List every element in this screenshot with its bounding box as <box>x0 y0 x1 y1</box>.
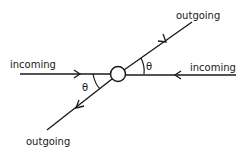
theta-right-label: θ <box>146 61 152 72</box>
angle-arc-right <box>141 58 144 74</box>
theta-left-label: θ <box>82 82 88 93</box>
outgoing-top-label: outgoing <box>176 10 220 21</box>
scattering-diagram: incoming incoming outgoing outgoing θ θ <box>0 0 248 156</box>
outgoing-bottom-line <box>47 79 112 130</box>
outgoing-top-line <box>124 22 192 70</box>
incoming-right-label: incoming <box>190 62 236 73</box>
outgoing-bottom-label: outgoing <box>26 136 70 147</box>
angle-arc-left <box>93 74 100 89</box>
incoming-left-label: incoming <box>10 59 56 70</box>
vertex-circle <box>111 67 126 82</box>
diagram-canvas: incoming incoming outgoing outgoing θ θ <box>0 0 248 156</box>
